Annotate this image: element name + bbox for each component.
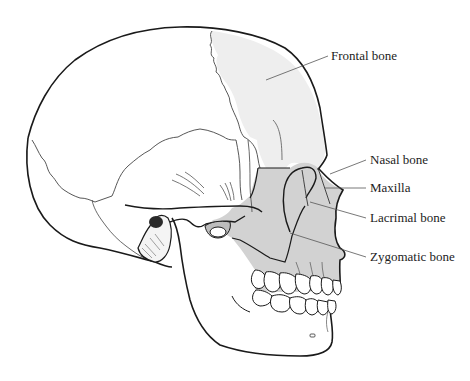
lower-teeth bbox=[253, 290, 336, 315]
label-nasal-bone: Nasal bone bbox=[370, 153, 428, 166]
chin-line bbox=[327, 312, 329, 332]
label-frontal-bone: Frontal bone bbox=[331, 49, 397, 62]
label-lacrimal-bone: Lacrimal bone bbox=[370, 211, 445, 224]
label-maxilla: Maxilla bbox=[370, 181, 410, 194]
external-auditory-meatus bbox=[149, 216, 163, 228]
skull-diagram: Frontal bone Nasal bone Maxilla Lacrimal… bbox=[0, 0, 470, 381]
mental-foramen bbox=[310, 334, 315, 337]
lambdoid-suture bbox=[32, 140, 112, 202]
mandible-ramus-front bbox=[232, 296, 250, 312]
temporal-striations bbox=[172, 172, 234, 201]
coronoid-opening bbox=[210, 227, 226, 237]
nasal-leader bbox=[330, 160, 366, 174]
frontal-bone-region bbox=[211, 31, 325, 168]
label-zygomatic-bone: Zygomatic bone bbox=[370, 250, 455, 263]
